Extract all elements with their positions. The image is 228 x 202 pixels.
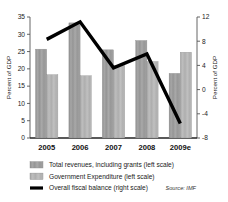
bar-government-expenditure (114, 65, 125, 138)
category-label: 2005 (38, 143, 56, 152)
left-tick-label: 10 (18, 100, 26, 107)
category-label: 2007 (105, 143, 122, 152)
category-label: 2009e (170, 143, 191, 152)
right-axis-title: Percent of GDP (211, 56, 218, 99)
left-tick-label: 15 (18, 82, 26, 89)
legend-item-label: Government Expenditure (left scale) (49, 173, 155, 181)
right-tick-label: 0 (202, 86, 206, 93)
right-tick-label: -8 (202, 134, 208, 141)
left-tick-label: 0 (21, 134, 25, 141)
right-tick-label: -4 (202, 110, 208, 117)
legend-swatch-expenditure (30, 173, 43, 179)
left-tick-label: 35 (18, 13, 26, 20)
legend-swatch-revenues (30, 162, 43, 168)
legend-item-label: Overall fiscal balance (right scale) (49, 184, 148, 192)
category-label: 2008 (138, 143, 155, 152)
left-tick-label: 20 (18, 65, 26, 72)
bar-total-revenues (36, 49, 47, 138)
left-axis-title: Percent of GDP (5, 56, 12, 99)
right-tick-label: 12 (202, 13, 210, 20)
right-tick-label: 4 (202, 62, 206, 69)
left-tick-label: 25 (18, 48, 26, 55)
legend-swatch-line (30, 186, 43, 189)
bar-total-revenues (69, 23, 80, 138)
bar-government-expenditure (80, 76, 91, 138)
left-tick-label: 5 (21, 117, 25, 124)
legend-item-label: Total revenues, including grants (left s… (49, 161, 174, 169)
left-tick-label: 30 (18, 31, 26, 38)
category-label: 2006 (72, 143, 89, 152)
bar-government-expenditure (47, 75, 58, 138)
chart-canvas: 05101520253035-8-404812Percent of GDPPer… (0, 0, 228, 202)
right-tick-label: 8 (202, 38, 206, 45)
bar-government-expenditure (180, 52, 191, 138)
fiscal-indicators-chart: 05101520253035-8-404812Percent of GDPPer… (0, 0, 228, 202)
source-note: Source: IMF (166, 185, 197, 191)
